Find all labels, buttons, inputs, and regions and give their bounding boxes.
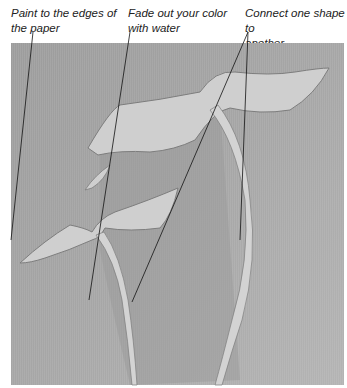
watercolor-painting [0, 0, 347, 388]
